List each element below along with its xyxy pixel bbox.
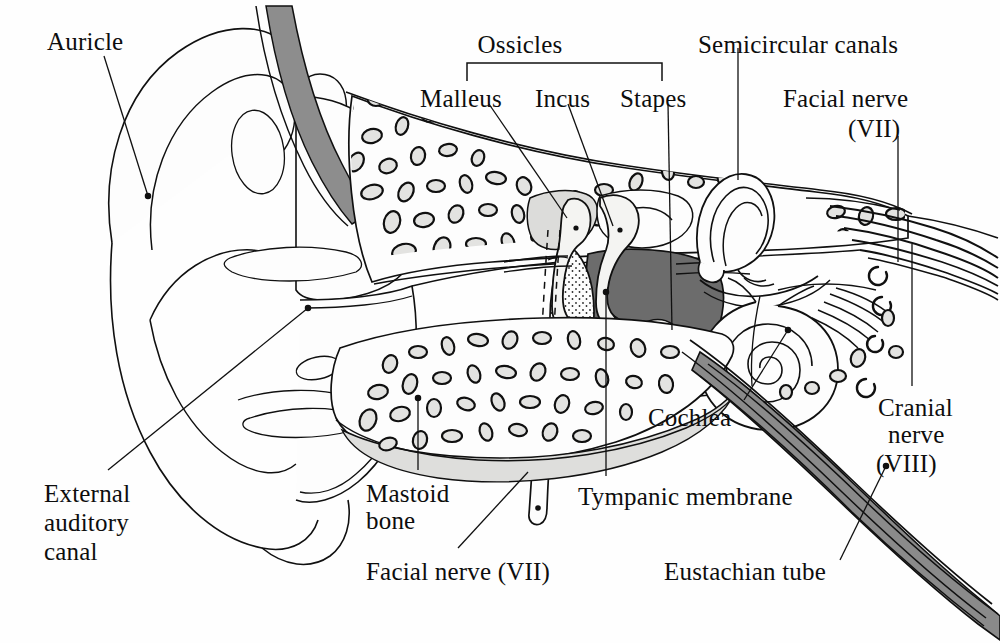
label-eustachian-tube: Eustachian tube xyxy=(664,558,826,585)
label-stapes: Stapes xyxy=(620,85,686,112)
label-auricle: Auricle xyxy=(47,28,123,55)
label-ossicles: Ossicles xyxy=(470,31,570,58)
label-external-auditory-canal-line3: canal xyxy=(44,538,98,565)
label-tympanic-membrane: Tympanic membrane xyxy=(578,483,793,510)
label-malleus: Malleus xyxy=(420,85,502,112)
label-cranial-nerve: Cranial xyxy=(878,394,953,421)
label-facial-nerve-upper: Facial nerve xyxy=(783,85,908,112)
label-mastoid-bone-line2: bone xyxy=(366,507,415,534)
label-external-auditory-canal: External xyxy=(44,480,130,507)
label-semicircular-canals: Semicircular canals xyxy=(698,31,898,58)
ear-anatomy-figure: Auricle Ossicles Semicircular canals Mal… xyxy=(0,0,1000,643)
label-cochlea: Cochlea xyxy=(648,404,731,431)
label-cranial-nerve-numeral: (VIII) xyxy=(876,450,937,477)
label-incus: Incus xyxy=(535,85,590,112)
label-external-auditory-canal-line2: auditory xyxy=(44,509,129,536)
label-mastoid-bone: Mastoid xyxy=(366,480,449,507)
label-cranial-nerve-line2: nerve xyxy=(888,421,945,448)
label-facial-nerve-lower: Facial nerve (VII) xyxy=(366,558,550,585)
label-facial-nerve-upper-numeral: (VII) xyxy=(848,115,900,142)
